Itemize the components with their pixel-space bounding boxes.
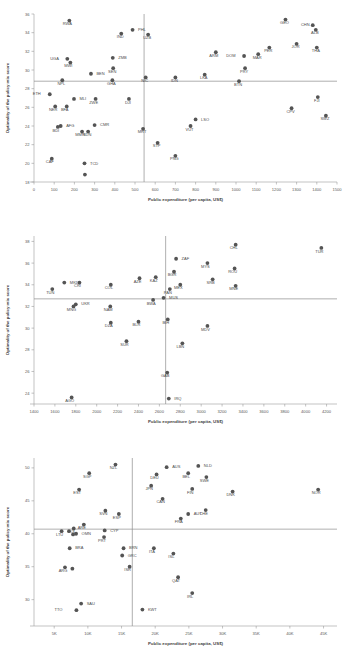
data-point (194, 118, 198, 122)
data-point (67, 529, 71, 533)
data-point (141, 608, 145, 612)
data-point (311, 23, 315, 27)
scatter-plot-figure: 0100200300400500600700800900100011001200… (0, 0, 347, 666)
x-tick-label: 3400 (238, 409, 248, 414)
data-point-label: MLI (79, 96, 86, 101)
data-point-label: ZMB (118, 55, 127, 60)
data-point-label: PHL (138, 27, 147, 32)
x-axis-title: Public expenditure (per capita, US$) (148, 419, 224, 424)
data-point-label: MWI (64, 63, 72, 68)
x-tick-label: 2400 (134, 409, 144, 414)
data-point-label: LKA (200, 75, 208, 80)
data-point-label: PER (264, 48, 272, 53)
x-tick-label: 40K (286, 631, 294, 636)
data-point-label: LSO (201, 117, 209, 122)
data-point-label: BTN (234, 82, 242, 87)
x-tick-label: 900 (212, 187, 220, 192)
x-tick-label: 600 (152, 187, 160, 192)
panel-2: 1400160018002000220024002600280030003200… (0, 222, 347, 444)
data-point (131, 28, 135, 32)
data-point-label: NLD (204, 463, 212, 468)
data-point-label: TCD (90, 161, 98, 166)
y-tick-label: 34 (25, 282, 30, 287)
data-point-label: KAZ (150, 278, 158, 283)
x-tick-label: 0 (33, 187, 36, 192)
data-point-label: CRI (74, 283, 81, 288)
data-point-label: TUN (46, 290, 54, 295)
y-tick-label: 30 (25, 597, 30, 602)
y-tick-label: 40 (25, 531, 30, 536)
data-point-label: COL (105, 285, 114, 290)
data-point-label: BFA (61, 107, 69, 112)
data-point-label: JPN (145, 486, 153, 491)
data-point-label: IRL (187, 594, 194, 599)
data-point-label: TTO (54, 607, 62, 612)
data-point-label: MYS (201, 264, 210, 269)
y-tick-label: 28 (25, 86, 30, 91)
y-tick-label: 35 (25, 564, 30, 569)
data-point-label: ZAF (182, 256, 190, 261)
data-point-label: BLR (133, 322, 141, 327)
data-point-label: SEN (108, 69, 116, 74)
data-point-label: BRA (75, 545, 84, 550)
x-tick-label: 1400 (29, 409, 39, 414)
data-point-label: BIH (162, 320, 169, 325)
y-tick-label: 32 (25, 304, 30, 309)
data-point-label: AGO (65, 398, 74, 403)
data-point-label: THA (312, 48, 320, 53)
data-point-label: EST (73, 490, 81, 495)
data-point-label: GHA (107, 81, 116, 86)
x-axis-title: Public expenditure (per capita, US$) (148, 197, 224, 202)
data-point-label: ARG (59, 568, 68, 573)
data-point-label: MAR (253, 55, 262, 60)
panel-3-plot: 5K10K15K20K25K30K35K40K45K3035404550Publ… (0, 444, 347, 666)
data-point-label: MEX (174, 285, 183, 290)
data-point-label: CPV (286, 109, 295, 114)
data-point-label: BDI (53, 128, 60, 133)
data-point-label: NOR (312, 490, 321, 495)
data-points-group: RWAPHLINDUZBGEOCHNALBUGAMWIZMBSENARMDOMP… (33, 18, 330, 177)
data-point (68, 546, 72, 550)
y-tick-label: 50 (25, 465, 30, 470)
data-point-label: NPL (57, 81, 66, 86)
x-tick-label: 700 (172, 187, 180, 192)
data-point-label: IRQ (174, 396, 181, 401)
data-point-label: NZL (110, 465, 118, 470)
data-point-label: GEO (280, 20, 289, 25)
data-point-label: JOR (292, 44, 300, 49)
data-point (167, 397, 171, 401)
data-point-label: SWZ (320, 116, 329, 121)
x-tick-label: 20K (152, 631, 160, 636)
data-point-label: CHN (301, 22, 310, 27)
data-point-label: MRT (138, 129, 147, 134)
data-point-label: MNE (229, 286, 238, 291)
data-point (120, 554, 124, 558)
x-tick-label: 2200 (113, 409, 123, 414)
x-tick-label: 15K (118, 631, 126, 636)
x-tick-label: 1200 (272, 187, 282, 192)
data-point-label: MNG (67, 307, 76, 312)
x-tick-label: 2000 (92, 409, 102, 414)
data-point (62, 281, 66, 285)
data-point (70, 567, 74, 571)
data-point (186, 512, 190, 516)
data-point-label: DOM (226, 53, 235, 58)
y-tick-label: 20 (25, 161, 30, 166)
data-point (83, 161, 87, 165)
data-point (79, 602, 83, 606)
data-point-label: FJI (314, 98, 320, 103)
data-point-label: DJI (125, 100, 131, 105)
data-point-label: DZA (105, 323, 113, 328)
data-point-label: NIC (141, 78, 148, 83)
data-point-label: QAT (172, 578, 180, 583)
x-tick-label: 4000 (301, 409, 311, 414)
data-point-label: BWA (147, 301, 156, 306)
data-points-group: NZLAUSNLDSGPDEUBELSWEESTJPNFINDNKNORCANS… (54, 463, 320, 613)
data-point (72, 97, 76, 101)
data-point-label: OMN (82, 531, 91, 536)
data-point-label: ARE (78, 525, 87, 530)
data-point-label: ESP (113, 515, 121, 520)
data-point-label: UZB (143, 35, 151, 40)
y-tick-label: 26 (25, 105, 30, 110)
data-point-label: DEU (150, 475, 159, 480)
